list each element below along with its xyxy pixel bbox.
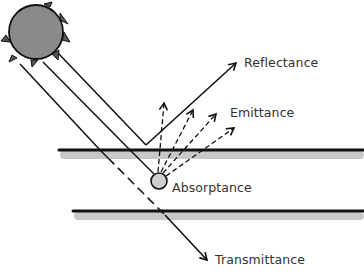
transmittance-ray [100,150,207,260]
reflectance-ray [146,63,236,145]
diagram-canvas [0,0,364,275]
incident-rays [20,53,146,150]
bottom-surface-layer [73,211,364,220]
emittance-rays [158,103,234,176]
sun-icon [1,2,70,67]
emittance-label: Emittance [230,105,294,120]
reflectance-label: Reflectance [244,55,318,70]
transmittance-label: Transmittance [215,252,305,267]
absorptance-label: Absorptance [172,180,252,195]
absorber-particle [151,173,167,189]
